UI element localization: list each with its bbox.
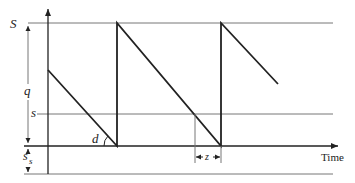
label-s: s <box>31 105 36 120</box>
label-z: z <box>204 151 209 162</box>
label-time: Time <box>321 151 344 163</box>
inventory-diagram: S q s s s d z Time <box>0 0 355 183</box>
label-S: S <box>10 16 17 31</box>
diagram-canvas: S q s s s d z Time <box>0 0 355 183</box>
label-d: d <box>92 131 99 146</box>
label-ss-main: s <box>23 149 28 163</box>
label-q: q <box>24 83 31 98</box>
demand-angle-arc <box>104 136 108 146</box>
label-ss-sub: s <box>29 156 33 166</box>
inventory-sawtooth <box>48 23 278 146</box>
